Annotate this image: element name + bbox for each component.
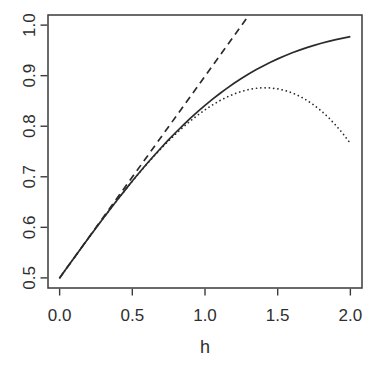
y-tick-label: 0.9	[20, 64, 39, 88]
plot-frame	[48, 15, 362, 288]
x-tick-label: 0.0	[48, 306, 72, 325]
series-dotted-curve	[60, 88, 351, 278]
y-tick-label: 1.0	[20, 13, 39, 37]
series-dashed-line	[60, 15, 249, 278]
x-tick-label: 0.5	[120, 306, 144, 325]
y-tick-label: 0.8	[20, 114, 39, 138]
series-solid-curve	[60, 37, 351, 278]
plot-canvas: 0.00.51.01.52.00.50.60.70.80.91.0	[0, 0, 375, 365]
plot-figure: 0.00.51.01.52.00.50.60.70.80.91.0 h	[0, 0, 375, 365]
y-tick-label: 0.7	[20, 165, 39, 189]
x-tick-label: 1.0	[193, 306, 217, 325]
x-tick-label: 1.5	[266, 306, 290, 325]
x-tick-label: 2.0	[339, 306, 363, 325]
y-tick-label: 0.5	[20, 266, 39, 290]
y-tick-label: 0.6	[20, 216, 39, 240]
x-axis-title: h	[48, 336, 362, 358]
